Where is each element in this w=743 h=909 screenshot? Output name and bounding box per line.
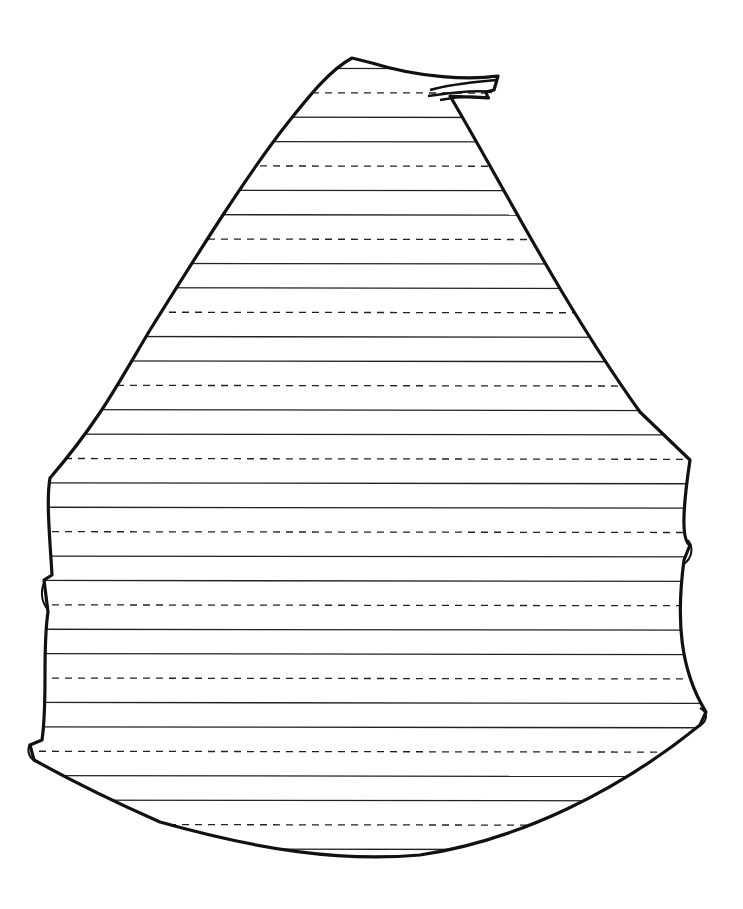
ruled-line: [0, 312, 743, 313]
ruled-line: [0, 776, 743, 777]
ruled-line: [0, 654, 743, 655]
ruled-line: [0, 263, 743, 264]
ruled-line: [0, 727, 743, 728]
ruled-line: [0, 678, 743, 679]
ruled-line: [0, 702, 743, 703]
ruled-line: [0, 532, 743, 533]
ruled-line: [0, 629, 743, 630]
sail-drawing: [0, 0, 743, 909]
ruled-line: [0, 239, 743, 240]
ruled-line: [0, 507, 743, 508]
ruled-line: [0, 410, 743, 411]
ruled-line: [0, 288, 743, 289]
ruled-line: [0, 483, 743, 484]
ruled-line: [0, 824, 743, 825]
ruled-line: [0, 141, 743, 142]
sail-outline: [30, 58, 706, 857]
ruled-line: [0, 385, 743, 386]
ruled-line: [0, 434, 743, 435]
ruled-line: [0, 214, 743, 215]
ruled-line: [0, 92, 743, 93]
ruled-line: [0, 117, 743, 118]
ruled-line: [0, 556, 743, 557]
ruled-line: [0, 166, 743, 167]
ruled-line: [0, 580, 743, 581]
ruled-line: [0, 190, 743, 191]
right-notch: [684, 540, 706, 726]
sail-tip-flag: [428, 80, 496, 100]
ruled-line: [0, 458, 743, 459]
ruled-line: [0, 68, 743, 69]
ruled-line: [0, 605, 743, 606]
ruled-line: [0, 361, 743, 362]
ruled-line: [0, 751, 743, 752]
ruled-line: [0, 336, 743, 337]
ruled-lines: [0, 68, 743, 850]
ruled-line: [0, 849, 743, 850]
